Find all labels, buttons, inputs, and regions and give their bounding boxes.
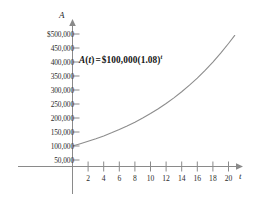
y-tick-label: 400,000 [51,58,74,67]
exponential-growth-chart: $500,000 450,000 400,000 350,000 300,000… [0,0,254,200]
y-axis-title: A [59,10,65,20]
equation-base: 1.08 [141,55,158,65]
x-tick-label: 4 [102,174,106,183]
x-tick-label: 6 [117,174,121,183]
x-tick-label: 16 [194,174,202,183]
x-tick-label: 10 [147,174,155,183]
equation-principal: $100,000 [102,55,138,65]
equation-equals-sign: = [94,55,101,65]
y-tick-label: 150,000 [51,128,74,137]
y-tick-label: $500,000 [47,30,74,39]
x-tick-label: 8 [133,174,137,183]
equation-annotation: A(t)=$100,000(1.08)t [79,53,162,65]
y-tick-label: 50,000 [54,156,74,165]
y-axis-arrow-icon [69,19,76,26]
y-tick-label: 450,000 [51,44,74,53]
x-axis-arrow-icon [236,163,243,170]
x-tick-label: 14 [178,174,186,183]
y-tick-label: 100,000 [51,142,74,151]
equation-exponent: t [161,53,163,60]
x-tick-label: 20 [225,174,233,183]
y-tick-label: 350,000 [51,72,74,81]
y-tick-label: 200,000 [51,114,74,123]
y-tick-label: 300,000 [51,86,74,95]
x-axis-title: t [239,171,242,181]
x-tick-label: 12 [162,174,170,183]
y-tick-label: 250,000 [51,100,74,109]
x-tick-label: 2 [86,174,90,183]
x-tick-label: 18 [209,174,217,183]
chart-canvas [0,0,254,200]
